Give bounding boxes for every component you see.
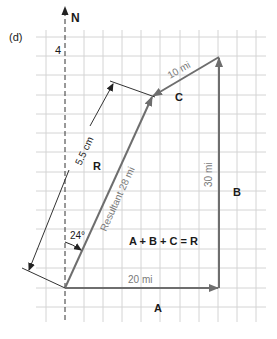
vector-resultant [65,97,152,288]
dimension-line-lower [29,170,69,270]
vector-a-magnitude: 20 mi [128,274,152,285]
panel-label: (d) [9,31,22,43]
vector-c-label: C [175,91,183,103]
resultant-label: R [93,160,101,172]
vector-a-label: A [154,302,162,314]
angle-label: 24° [70,230,85,241]
grid-label: 4 [55,44,61,56]
dimension-line-upper [90,84,113,126]
vector-b-magnitude: 30 mi [203,163,214,187]
vector-c-magnitude: 10 mi [166,59,193,81]
dimension-tick-bottom [22,268,65,288]
vector-b-label: B [233,186,241,198]
north-arrow-icon [62,6,69,15]
equation: A + B + C = R [129,235,198,247]
vector-diagram: (d) N 4 10 mi C 30 mi B 20 mi A Resultan… [0,0,277,339]
north-label: N [71,11,80,25]
